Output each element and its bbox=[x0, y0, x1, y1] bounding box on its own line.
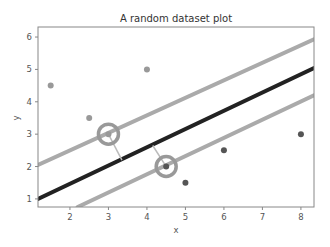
y-tick-label: 6 bbox=[27, 32, 32, 42]
lower-margin-line bbox=[78, 95, 314, 207]
y-tick-label: 3 bbox=[27, 129, 32, 139]
data-point bbox=[298, 131, 304, 137]
y-tick-label: 1 bbox=[27, 194, 32, 204]
data-point bbox=[221, 147, 227, 153]
x-tick-label: 6 bbox=[221, 212, 226, 222]
data-point bbox=[163, 164, 169, 170]
data-point bbox=[86, 115, 92, 121]
upper-margin-line bbox=[38, 39, 314, 165]
x-tick-label: 3 bbox=[106, 212, 111, 222]
x-tick-label: 4 bbox=[144, 212, 149, 222]
margin-connector bbox=[108, 134, 121, 160]
y-axis-label: y bbox=[11, 115, 21, 120]
x-tick-label: 5 bbox=[183, 212, 188, 222]
plot-area bbox=[38, 39, 314, 207]
x-tick-label: 8 bbox=[298, 212, 303, 222]
chart-title: A random dataset plot bbox=[120, 13, 232, 24]
x-tick-label: 2 bbox=[67, 212, 72, 222]
x-axis-label: x bbox=[173, 225, 178, 235]
scatter-chart: A random dataset plot 2345678 123456 x y bbox=[0, 0, 330, 247]
y-axis-ticks: 123456 bbox=[27, 32, 38, 204]
data-point bbox=[48, 83, 54, 89]
data-point bbox=[105, 131, 111, 137]
x-tick-label: 7 bbox=[260, 212, 265, 222]
x-axis-ticks: 2345678 bbox=[67, 207, 303, 222]
y-tick-label: 2 bbox=[27, 162, 32, 172]
decision-boundary-line bbox=[38, 68, 314, 199]
data-point bbox=[144, 66, 150, 72]
y-tick-label: 4 bbox=[27, 97, 32, 107]
data-point bbox=[182, 180, 188, 186]
y-tick-label: 5 bbox=[27, 64, 32, 74]
